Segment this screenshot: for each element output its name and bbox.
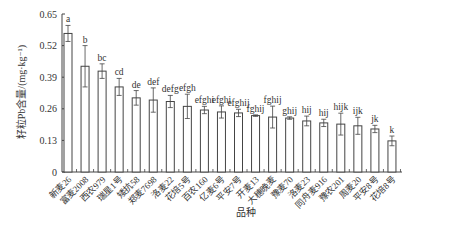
bar-rect bbox=[98, 71, 106, 172]
x-axis-labels: 新麦26富麦2008西农979瑞星1号矮抗58郑麦7698洛麦22花培5号百农1… bbox=[47, 173, 398, 210]
bar: fghij bbox=[247, 104, 265, 172]
bar: def bbox=[147, 77, 162, 172]
significance-letter: hijk bbox=[333, 102, 348, 112]
bar-rect bbox=[115, 87, 123, 172]
significance-letter: fghij bbox=[247, 104, 265, 114]
bars-group: abbccddedefdefgefghefghiefghiefghijfghij… bbox=[64, 14, 400, 172]
significance-letter: a bbox=[66, 14, 71, 24]
significance-letter: jk bbox=[370, 114, 379, 124]
bar: hij bbox=[302, 105, 316, 172]
bar: ijk bbox=[353, 106, 367, 172]
bar-rect bbox=[371, 129, 379, 172]
significance-letter: de bbox=[132, 80, 141, 90]
bar-rect bbox=[286, 118, 294, 172]
significance-letter: hij bbox=[302, 105, 312, 115]
significance-letter: efgh bbox=[179, 83, 196, 93]
y-tick-label: 0.13 bbox=[40, 135, 58, 146]
bar-rect bbox=[303, 121, 311, 172]
significance-letter: k bbox=[390, 125, 395, 135]
bar: k bbox=[388, 125, 401, 172]
significance-letter: ijk bbox=[353, 106, 363, 116]
bar: cd bbox=[115, 67, 128, 172]
bar-chart: 00.130.260.390.520.65 abbccddedefdefgefg… bbox=[0, 0, 460, 231]
y-tick-label: 0.26 bbox=[40, 103, 58, 114]
bar: b bbox=[81, 35, 94, 172]
significance-letter: def bbox=[147, 77, 160, 87]
bar: defg bbox=[162, 84, 179, 172]
bar: bc bbox=[98, 53, 111, 172]
significance-letter: bc bbox=[98, 53, 107, 63]
y-tick-label: 0.52 bbox=[40, 40, 58, 51]
y-axis-title: 籽粒Pb含量/(mg·kg⁻¹) bbox=[15, 45, 28, 139]
significance-letter: defg bbox=[162, 84, 179, 94]
y-tick-label: 0 bbox=[52, 167, 57, 178]
bar-rect bbox=[200, 110, 208, 172]
bar-rect bbox=[64, 33, 72, 172]
bar-rect bbox=[166, 102, 174, 172]
bar: efgh bbox=[179, 83, 196, 172]
significance-letter: fghij bbox=[264, 95, 282, 105]
significance-letter: b bbox=[83, 35, 88, 45]
bar: hij bbox=[319, 108, 333, 172]
bar: de bbox=[132, 80, 145, 172]
y-tick-label: 0.65 bbox=[40, 9, 58, 20]
bar: efghi bbox=[195, 95, 215, 172]
bar: hijk bbox=[333, 102, 349, 172]
bar: fghij bbox=[264, 95, 282, 172]
x-axis-title: 品种 bbox=[236, 206, 256, 218]
significance-letter: hij bbox=[319, 108, 329, 118]
bar: jk bbox=[370, 114, 383, 172]
bar-rect bbox=[320, 123, 328, 172]
bar-rect bbox=[132, 98, 140, 172]
significance-letter: cd bbox=[115, 67, 124, 77]
bar-rect bbox=[217, 112, 225, 172]
y-tick-label: 0.39 bbox=[40, 72, 58, 83]
significance-letter: ghij bbox=[282, 106, 297, 116]
bar: ghij bbox=[282, 106, 298, 172]
bar-rect bbox=[235, 113, 243, 172]
bar: a bbox=[64, 14, 77, 172]
bar-rect bbox=[252, 116, 260, 172]
